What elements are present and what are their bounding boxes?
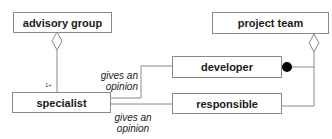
- class-advisory-group-label: advisory group: [23, 17, 102, 29]
- class-responsible[interactable]: responsible: [172, 93, 282, 114]
- class-project-team-label: project team: [238, 17, 303, 29]
- association-label-line2: opinion: [106, 123, 160, 134]
- association-label-line2: opinion: [84, 81, 138, 92]
- class-project-team[interactable]: project team: [212, 12, 329, 34]
- class-specialist-label: specialist: [36, 97, 86, 109]
- class-responsible-label: responsible: [196, 98, 258, 110]
- filled-circle-icon: [282, 62, 292, 72]
- association-label-responsible: gives an opinion: [106, 112, 160, 134]
- association-label-line1: gives an: [84, 70, 138, 81]
- class-developer-label: developer: [201, 61, 253, 73]
- class-advisory-group[interactable]: advisory group: [13, 12, 112, 33]
- class-developer[interactable]: developer: [172, 56, 282, 78]
- multiplicity-label: 1+: [45, 82, 52, 88]
- association-label-line1: gives an: [106, 112, 160, 123]
- aggregation-diamond-advisory: [52, 32, 62, 50]
- association-label-developer: gives an opinion: [84, 70, 138, 92]
- class-specialist[interactable]: specialist: [12, 92, 111, 113]
- aggregation-diamond-project-team: [309, 34, 319, 52]
